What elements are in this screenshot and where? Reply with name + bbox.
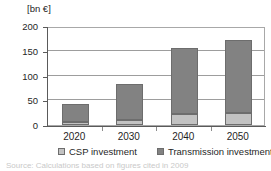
bar-segment-2030-csp xyxy=(116,120,143,125)
bar-segment-2050-csp xyxy=(225,113,252,125)
x-tick-label-2040: 2040 xyxy=(156,131,211,143)
bar-2020 xyxy=(62,28,89,125)
bar-segment-2020-csp xyxy=(62,122,89,125)
y-tick-mark xyxy=(43,77,48,78)
y-tick-mark xyxy=(43,126,48,127)
y-tick-mark xyxy=(43,101,48,102)
bar-segment-2030-transmission xyxy=(116,84,143,120)
bar-segment-2020-transmission xyxy=(62,104,89,121)
x-tick-label-2020: 2020 xyxy=(47,131,102,143)
plot-area xyxy=(47,27,265,126)
source-caption: Source: Calculations based on figures ci… xyxy=(6,161,256,170)
legend-swatch-icon-csp xyxy=(58,148,65,155)
y-tick-mark xyxy=(43,52,48,53)
bar-2030 xyxy=(116,28,143,125)
y-tick-mark xyxy=(43,27,48,28)
y-tick-label-0: 0 xyxy=(33,121,38,131)
source-caption-text: Source: Calculations based on figures ci… xyxy=(6,161,256,170)
y-tick-label-100: 100 xyxy=(22,72,38,82)
plot-inner xyxy=(48,28,264,125)
y-tick-label-200: 200 xyxy=(22,22,38,32)
x-tick-label-2030: 2030 xyxy=(102,131,157,143)
legend-label-csp: CSP investment xyxy=(69,146,137,157)
legend-label-transmission: Transmission investment xyxy=(168,146,271,157)
legend-swatch-icon-transmission xyxy=(157,148,164,155)
legend-item-transmission-investment: Transmission investment xyxy=(157,146,271,157)
bar-segment-2050-transmission xyxy=(225,40,252,113)
chart-figure: [bn €] 050100150200 2020203020402050 CSP… xyxy=(0,0,271,171)
bar-2050 xyxy=(225,28,252,125)
y-axis-unit-label: [bn €] xyxy=(27,3,51,14)
legend-item-csp-investment: CSP investment xyxy=(58,146,137,157)
y-tick-label-150: 150 xyxy=(22,47,38,57)
y-tick-label-50: 50 xyxy=(27,96,38,106)
bar-segment-2040-csp xyxy=(171,114,198,125)
bar-2040 xyxy=(171,28,198,125)
x-tick-label-2050: 2050 xyxy=(211,131,266,143)
chart-legend: CSP investment Transmission investment xyxy=(47,144,266,158)
bar-segment-2040-transmission xyxy=(171,48,198,113)
